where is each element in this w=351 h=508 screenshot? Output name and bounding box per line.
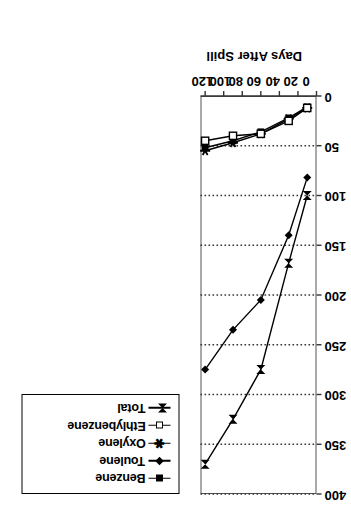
legend-entry-benzene: Benzene — [28, 469, 172, 487]
legend-entry-ethlybenzene: Ethlybenzene — [28, 417, 172, 435]
x-tick-label: 0 — [302, 75, 309, 88]
open-square-icon — [146, 417, 172, 433]
chart-canvas: BenzeneTouleneOxylene✱EthlybenzeneTotal … — [0, 0, 351, 508]
x-axis-title: Days After Spill — [206, 49, 302, 64]
y-tick-label: 400 — [324, 489, 346, 502]
legend-entry-total: Total — [28, 399, 172, 417]
rotated-figure: BenzeneTouleneOxylene✱EthlybenzeneTotal … — [0, 0, 351, 508]
x-tick-label: 120 — [191, 75, 213, 88]
filled-diamond-icon — [146, 453, 172, 469]
plot-area — [200, 96, 316, 494]
legend-entry-oxylene: Oxylene✱ — [28, 434, 172, 452]
figure-body: BenzeneTouleneOxylene✱EthlybenzeneTotal … — [0, 0, 351, 508]
star-icon: ✱ — [146, 435, 172, 451]
x-tick-label: 40 — [265, 75, 279, 88]
x-tick-label: 20 — [283, 75, 297, 88]
y-tick-label: 50 — [324, 141, 338, 154]
y-tick-label: 200 — [324, 290, 346, 303]
legend-entry-toulene: Toulene — [28, 452, 172, 470]
y-tick-label: 100 — [324, 191, 346, 204]
y-tick-label: 150 — [324, 240, 346, 253]
legend-label: Total — [117, 402, 145, 415]
axis-ticks — [200, 96, 316, 494]
y-tick-label: 350 — [324, 439, 346, 452]
filled-square-icon — [146, 470, 172, 486]
legend-label: Oxylene — [98, 437, 145, 450]
chart-legend: BenzeneTouleneOxylene✱EthlybenzeneTotal — [21, 394, 179, 494]
x-tick-label: 60 — [246, 75, 260, 88]
y-tick-label: 250 — [324, 340, 346, 353]
legend-label: Ethlybenzene — [67, 419, 145, 432]
legend-label: Toulene — [99, 454, 145, 467]
legend-label: Benzene — [95, 472, 145, 485]
y-tick-label: 300 — [324, 390, 346, 403]
legend-entries: BenzeneTouleneOxylene✱EthlybenzeneTotal — [28, 399, 172, 487]
y-tick-label: 0 — [324, 91, 331, 104]
bowtie-icon — [146, 400, 172, 416]
